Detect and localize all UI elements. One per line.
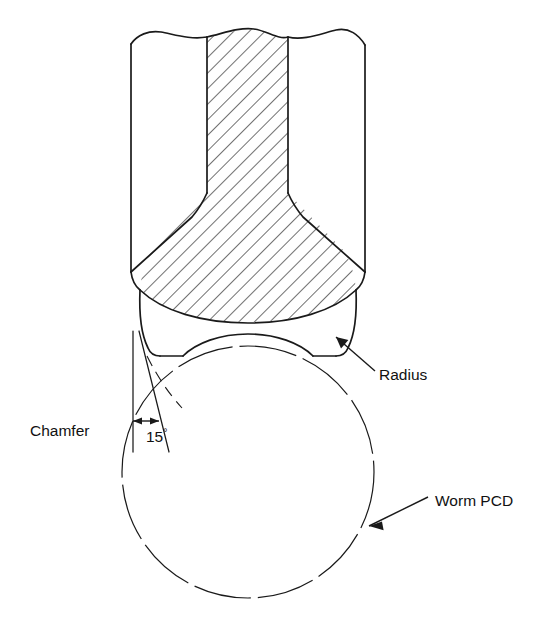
root-cut-arc xyxy=(183,334,313,356)
worm-pcd-leader-line xyxy=(369,497,428,526)
angle-label: 15° xyxy=(146,426,167,445)
angle-arrow-left xyxy=(133,417,142,424)
section-hatching xyxy=(140,30,356,322)
left-lower-flank xyxy=(131,272,140,290)
worm-pcd-leader xyxy=(369,497,428,530)
right-lower-flank xyxy=(356,272,365,290)
break-line-left xyxy=(131,32,207,44)
worm-pcd-label: Worm PCD xyxy=(435,492,513,509)
angle-dimension-arrows xyxy=(133,417,159,424)
chamfer-label: Chamfer xyxy=(30,422,89,439)
degree-symbol: ° xyxy=(163,426,167,438)
worm-pcd-circle xyxy=(122,346,374,598)
angle-value: 15 xyxy=(146,428,163,445)
technical-drawing-figure: Chamfer 15° Radius Worm PCD xyxy=(0,0,545,635)
break-line-right xyxy=(288,29,365,45)
cross-section-drawing: Chamfer 15° Radius Worm PCD xyxy=(0,0,545,635)
angle-arrow-right xyxy=(150,417,159,424)
radius-label: Radius xyxy=(379,366,427,383)
